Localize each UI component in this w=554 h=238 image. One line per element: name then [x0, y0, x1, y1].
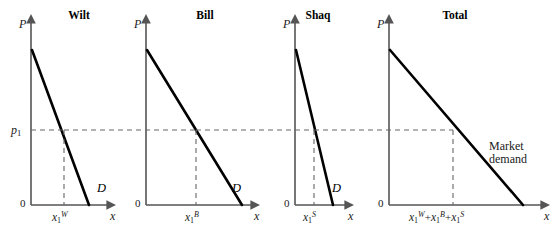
market-demand-line-1: Market: [489, 140, 527, 153]
total-demand-curve: [390, 50, 523, 205]
wilt-qty-sup: W: [61, 210, 68, 219]
panel-total: [314, 22, 542, 205]
wilt-quantity-axis-label: x: [110, 209, 115, 224]
bill-qty-sup: B: [194, 210, 199, 219]
demand-curves-figure: Wilt Bill Shaq Total P P P P x x x x 0 0…: [0, 0, 554, 238]
shaq-origin-label: 0: [284, 197, 290, 209]
total-quantity-axis-label: x: [544, 209, 549, 224]
shaq-demand-curve: [296, 50, 333, 205]
bill-demand-label: D: [232, 181, 241, 196]
panel-title-total: Total: [425, 9, 485, 21]
total-quantity-tick-label: x1W+x1B+x1S: [409, 211, 464, 223]
total-qty-term1-sup: W: [418, 210, 425, 219]
price-level-label: p1: [11, 123, 21, 138]
shaq-quantity-tick-label: x1S: [303, 211, 316, 223]
price-level-subscript: 1: [17, 128, 21, 138]
bill-price-axis-label: P: [134, 17, 141, 32]
market-demand-line-2: demand: [489, 153, 527, 166]
panel-title-bill: Bill: [175, 9, 235, 21]
wilt-price-axis-label: P: [19, 17, 26, 32]
figure-canvas: [0, 0, 554, 238]
bill-origin-label: 0: [135, 197, 141, 209]
bill-quantity-axis-label: x: [254, 209, 259, 224]
panel-bill: [64, 22, 252, 205]
total-qty-term3-sup: S: [460, 210, 464, 219]
total-price-axis-label: P: [377, 17, 384, 32]
wilt-origin-label: 0: [20, 197, 26, 209]
panel-shaq: [196, 22, 346, 205]
total-origin-label: 0: [378, 197, 384, 209]
panel-wilt: [31, 22, 108, 205]
bill-demand-curve: [147, 50, 242, 205]
wilt-demand-label: D: [97, 181, 106, 196]
panel-title-wilt: Wilt: [49, 9, 109, 21]
total-qty-term2-sup: B: [440, 210, 445, 219]
shaq-quantity-axis-label: x: [348, 209, 353, 224]
wilt-demand-curve: [32, 50, 89, 205]
market-demand-annotation: Market demand: [489, 140, 527, 167]
panel-title-shaq: Shaq: [288, 9, 348, 21]
shaq-demand-label: D: [332, 181, 341, 196]
wilt-quantity-tick-label: x1W: [52, 211, 68, 223]
shaq-price-axis-label: P: [283, 17, 290, 32]
shaq-qty-sup: S: [312, 210, 316, 219]
bill-quantity-tick-label: x1B: [185, 211, 199, 223]
